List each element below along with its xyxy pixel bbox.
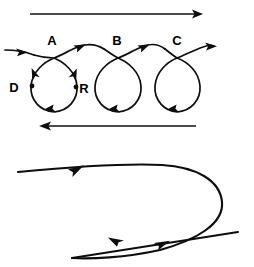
top-direction-arrow: [30, 10, 203, 19]
diagram-canvas: A B C D R: [0, 0, 254, 267]
trochoid-loop-b: [95, 45, 165, 112]
point-label-d: D: [9, 80, 18, 95]
outgoing-tail-path: [72, 232, 238, 258]
trochoid-drift-curve: [5, 43, 217, 113]
point-label-r: R: [79, 81, 89, 96]
point-r-marker-dot: [74, 85, 79, 90]
hairpin-return-path: [18, 165, 222, 259]
loop-label-b: B: [112, 33, 121, 48]
cycloid-trajectory-figure: A B C D R: [0, 0, 254, 267]
trochoid-loop-c: [155, 45, 214, 112]
bottom-direction-arrow: [39, 121, 196, 130]
hairpin-return-arrow-head: [108, 238, 124, 247]
outgoing-tail-line: [72, 232, 238, 258]
loop-label-c: C: [172, 33, 182, 48]
trochoid-entry-arrow-head: [16, 48, 28, 56]
hairpin-return-curve: [18, 165, 222, 259]
loop-label-a: A: [47, 33, 57, 48]
trochoid-loop-a: [31, 45, 104, 112]
point-d-marker-dot: [30, 84, 35, 89]
